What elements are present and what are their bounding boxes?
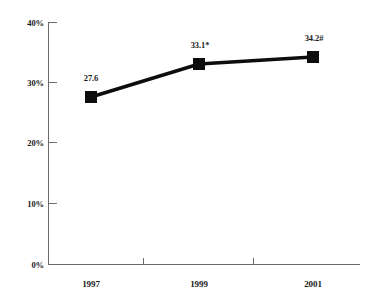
data-point-1997[interactable] [86, 92, 97, 103]
y-axis-tick-labels: 40% 30% 20% 10% 0% [27, 18, 44, 270]
x-tick-label-1997: 1997 [82, 279, 100, 289]
x-axis-ticks [144, 258, 254, 265]
x-tick-label-1999: 1999 [190, 279, 208, 289]
y-tick-label-40: 40% [27, 18, 44, 28]
y-axis-ticks [49, 23, 58, 204]
data-label-1997: 27.6 [84, 73, 98, 83]
data-point-1999[interactable] [194, 59, 205, 70]
x-tick-label-2001: 2001 [304, 279, 322, 289]
y-tick-label-20: 20% [27, 138, 44, 148]
data-label-2001: 34.2# [305, 33, 324, 43]
line-chart-figure: 40% 30% 20% 10% 0% 1997 1999 2001 27.6 [0, 0, 373, 305]
y-tick-label-0: 0% [31, 260, 44, 270]
data-point-2001[interactable] [308, 52, 319, 63]
data-label-1999: 33.1* [191, 40, 210, 50]
y-tick-label-30: 30% [27, 78, 44, 88]
chart-canvas: 40% 30% 20% 10% 0% 1997 1999 2001 27.6 [0, 0, 373, 305]
x-axis-tick-labels: 1997 1999 2001 [82, 279, 322, 289]
y-tick-label-10: 10% [27, 199, 44, 209]
